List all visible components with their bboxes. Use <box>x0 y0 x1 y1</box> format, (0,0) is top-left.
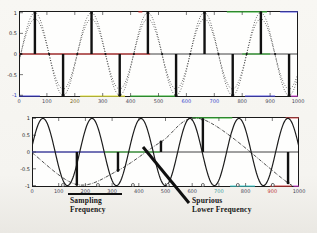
x-tick-label: 500 <box>149 98 169 104</box>
y-tick-label: 0.5 <box>2 30 17 36</box>
sample-point <box>201 118 204 121</box>
x-tick-label: 800 <box>236 188 256 194</box>
zero-sample-dot <box>48 53 50 55</box>
sample-point <box>146 11 149 14</box>
bottom-plot-aliased-sampling <box>32 117 299 187</box>
top-plot-adequate-sampling <box>19 11 298 97</box>
axis-sample-marker <box>236 184 239 187</box>
sample-point <box>34 11 37 14</box>
sample-point <box>118 94 121 97</box>
sample-point <box>90 11 93 14</box>
y-tick-label: 1 <box>15 115 30 121</box>
x-tick-label: 1000 <box>289 188 309 194</box>
y-tick-label: -1 <box>15 183 30 189</box>
y-tick-label: -0.5 <box>2 72 17 78</box>
zero-sample-dot <box>104 53 106 55</box>
zero-sample-dot <box>246 53 248 55</box>
zero-sample-dot <box>133 53 135 55</box>
zero-sample-dot <box>217 53 219 55</box>
sample-point <box>287 182 290 185</box>
x-tick-label: 1000 <box>288 98 308 104</box>
x-tick-label: 100 <box>49 188 69 194</box>
label-line: Lower Frequency <box>192 205 252 215</box>
axis-sample-marker <box>61 184 64 187</box>
sampling-frequency-label: Sampling Frequency <box>70 196 106 215</box>
zero-sample-dot <box>274 53 276 55</box>
x-tick-label: 700 <box>209 188 229 194</box>
x-tick-label: 900 <box>262 188 282 194</box>
x-tick-label: 600 <box>182 188 202 194</box>
x-tick-label: 400 <box>129 188 149 194</box>
sample-point <box>175 94 178 97</box>
sample-point <box>288 94 291 97</box>
x-tick-label: 400 <box>121 98 141 104</box>
axis-sample-marker <box>96 184 99 187</box>
y-tick-label: -0.5 <box>15 166 30 172</box>
sample-point <box>117 169 120 172</box>
label-line: Spurious <box>192 196 252 206</box>
x-tick-label: 700 <box>204 98 224 104</box>
x-tick-label: 800 <box>232 98 252 104</box>
top-plot-chart <box>19 11 298 97</box>
y-tick-label: 0.5 <box>15 132 30 138</box>
x-tick-label: 300 <box>93 98 113 104</box>
x-tick-label: 0 <box>9 98 29 104</box>
x-tick-label: 500 <box>156 188 176 194</box>
x-tick-label: 100 <box>37 98 57 104</box>
axis-sample-marker <box>271 184 274 187</box>
sample-point <box>259 11 262 14</box>
x-tick-label: 200 <box>65 98 85 104</box>
sample-point <box>203 11 206 14</box>
zero-sample-dot <box>76 53 78 55</box>
aliasing-figure: Sampling Frequency Spurious Lower Freque… <box>0 0 317 233</box>
axis-sample-marker <box>131 184 134 187</box>
zero-sample-dot <box>189 53 191 55</box>
zero-sample-dot <box>161 53 163 55</box>
label-line: Sampling <box>70 196 106 206</box>
y-tick-label: 0 <box>2 51 17 57</box>
label-line: Frequency <box>70 205 106 215</box>
sampling-frequency-underline <box>68 193 122 195</box>
y-tick-label: 1 <box>2 10 17 16</box>
sample-point <box>75 183 78 186</box>
y-tick-label: 0 <box>15 149 30 155</box>
zero-sample-dot <box>20 53 22 55</box>
sample-point <box>62 94 65 97</box>
x-tick-label: 0 <box>22 188 42 194</box>
axis-sample-marker <box>166 184 169 187</box>
y-tick-label: -1 <box>2 92 17 98</box>
sample-point <box>231 94 234 97</box>
x-tick-label: 900 <box>260 98 280 104</box>
x-tick-label: 600 <box>176 98 196 104</box>
bottom-plot-chart <box>32 117 299 187</box>
sample-point <box>160 141 163 144</box>
axis-sample-marker <box>201 184 204 187</box>
spurious-lower-frequency-label: Spurious Lower Frequency <box>192 196 252 215</box>
